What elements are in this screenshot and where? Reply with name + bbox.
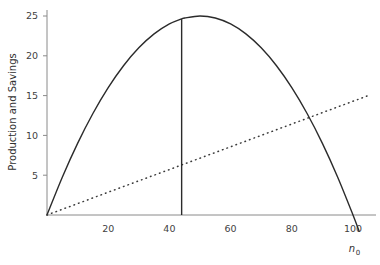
y-tick-label: 20 [26, 50, 38, 61]
savings-line [47, 96, 368, 215]
x-tick-label: 100 [344, 223, 362, 234]
production-savings-plot: 5 10 15 20 25 20 40 60 80 100 Production… [0, 0, 380, 265]
x-tick-label: 80 [286, 223, 298, 234]
y-axis-title: Production and Savings [7, 53, 18, 170]
x-axis-title: n 0 [349, 243, 360, 257]
y-tick-label: 10 [26, 130, 38, 141]
x-axis-title-base: n [349, 243, 355, 254]
y-axis-tick-labels: 5 10 15 20 25 [26, 10, 38, 180]
x-tick-label: 20 [102, 223, 114, 234]
x-axis-title-subscript: 0 [356, 249, 360, 257]
y-tick-label: 5 [32, 170, 38, 181]
chart-figure: 5 10 15 20 25 20 40 60 80 100 Production… [0, 0, 380, 265]
production-curve [47, 16, 359, 231]
x-tick-label: 60 [225, 223, 237, 234]
y-tick-label: 15 [26, 90, 38, 101]
x-axis-tick-labels: 20 40 60 80 100 [102, 223, 362, 234]
x-tick-label: 40 [163, 223, 175, 234]
y-axis-ticks [43, 16, 47, 175]
y-tick-label: 25 [26, 10, 38, 21]
